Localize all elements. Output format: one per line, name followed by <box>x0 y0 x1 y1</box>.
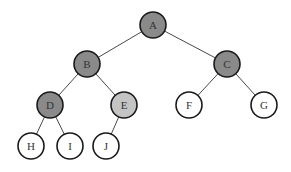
tree-node-b: B <box>74 51 100 77</box>
node-label: G <box>260 99 268 111</box>
node-label: E <box>121 99 128 111</box>
edges <box>31 25 264 146</box>
tree-node-i: I <box>57 133 83 159</box>
node-label: H <box>27 140 35 152</box>
binary-tree-canvas: ABCDEFGHIJ <box>0 0 291 172</box>
tree-node-c: C <box>214 51 240 77</box>
tree-node-f: F <box>176 92 202 118</box>
tree-node-h: H <box>18 133 44 159</box>
tree-node-a: A <box>140 12 166 38</box>
tree-diagram: ABCDEFGHIJ <box>0 0 291 172</box>
node-label: A <box>149 19 157 31</box>
node-label: D <box>46 99 54 111</box>
tree-node-e: E <box>111 92 137 118</box>
tree-node-g: G <box>251 92 277 118</box>
tree-node-j: J <box>93 133 119 159</box>
node-label: C <box>223 58 230 70</box>
node-label: J <box>104 140 109 152</box>
node-label: I <box>68 140 72 152</box>
nodes: ABCDEFGHIJ <box>18 12 277 159</box>
node-label: F <box>186 99 192 111</box>
tree-node-d: D <box>37 92 63 118</box>
node-label: B <box>83 58 90 70</box>
